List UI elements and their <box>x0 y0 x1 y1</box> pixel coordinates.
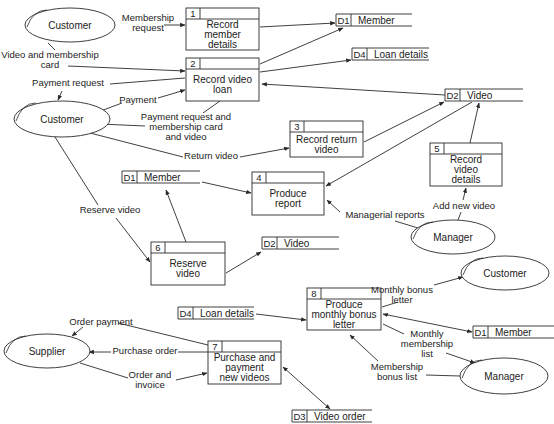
flow-label-text: list <box>421 348 433 359</box>
external-entity-supplier[interactable]: Supplier <box>4 334 90 368</box>
entity-label: Manager <box>484 371 524 382</box>
process-3[interactable]: 3Record returnvideo <box>290 121 363 157</box>
store-label: Member <box>495 327 532 338</box>
process-6[interactable]: 6Reservevideo <box>151 242 225 285</box>
flow-label-text: Add new video <box>433 200 495 211</box>
flow-label: Purchase order <box>113 345 178 356</box>
process-number: 3 <box>294 121 299 132</box>
flow-label-text: Reserve video <box>80 204 141 215</box>
flow-label: Membershipbonus list <box>371 361 423 382</box>
flow-label: Managerial reports <box>345 209 424 220</box>
process-number: 4 <box>256 172 261 183</box>
store-label: Video <box>284 238 310 249</box>
store-code: D2 <box>446 90 458 101</box>
data-store-d4[interactable]: D4Loan details <box>352 48 429 60</box>
process-label: letter <box>333 319 356 330</box>
data-store-d4[interactable]: D4Loan details <box>178 307 254 319</box>
flow-label: Reserve video <box>80 204 141 215</box>
external-entity-customer[interactable]: Customer <box>25 8 115 42</box>
store-label: Member <box>144 172 181 183</box>
data-store-d2[interactable]: D2Video <box>262 237 339 249</box>
flow-label-text: Purchase order <box>113 345 178 356</box>
store-label: Member <box>358 15 395 26</box>
flow-label-text: request <box>132 22 164 33</box>
process-number: 8 <box>311 288 316 299</box>
data-store-d1[interactable]: D1Member <box>336 14 412 26</box>
store-code: D4 <box>179 308 191 319</box>
flow-label-text: Order payment <box>69 316 133 327</box>
entity-label: Customer <box>48 20 92 31</box>
process-7[interactable]: 7Purchase andpaymentnew videos <box>208 341 281 384</box>
process-5[interactable]: 5Recordvideodetails <box>430 143 502 186</box>
store-label: Video order <box>314 411 366 422</box>
flow-label: Return video <box>184 150 238 161</box>
flow-label-text: Payment request <box>32 77 104 88</box>
store-code: D1 <box>123 172 135 183</box>
process-number: 7 <box>212 341 217 352</box>
process-1[interactable]: 1Recordmemberdetails <box>186 8 259 50</box>
process-number: 6 <box>155 242 160 253</box>
process-label: details <box>452 174 481 185</box>
store-code: D3 <box>293 411 305 422</box>
entity-label: Manager <box>433 232 473 243</box>
flow-label: Order payment <box>69 316 133 327</box>
process-number: 2 <box>190 58 195 69</box>
flow-label-text: letter <box>391 294 412 305</box>
process-label: details <box>208 39 237 50</box>
process-label: video <box>176 268 200 279</box>
flow-label-text: Return video <box>184 150 238 161</box>
store-code: D4 <box>353 49 365 60</box>
flow-label-text: and video <box>165 131 206 142</box>
flow-label-text: bonus list <box>377 371 417 382</box>
data-store-d3[interactable]: D3Video order <box>292 410 372 422</box>
data-store-d1[interactable]: D1Member <box>473 326 554 338</box>
store-code: D1 <box>474 327 486 338</box>
data-store-d2[interactable]: D2Video <box>445 89 523 101</box>
flow-label: Payment request andmembership cardand vi… <box>141 111 231 142</box>
entity-label: Customer <box>40 114 84 125</box>
process-label: loan <box>213 84 232 95</box>
process-8[interactable]: 8Producemonthly bonusletter <box>307 288 381 330</box>
store-code: D2 <box>263 238 275 249</box>
flow-label-text: Managerial reports <box>345 209 424 220</box>
external-entity-customer[interactable]: Customer <box>14 101 110 137</box>
flow-label: Monthlymembershiplist <box>401 328 453 359</box>
external-entity-customer[interactable]: Customer <box>461 256 549 290</box>
entity-label: Supplier <box>29 346 66 357</box>
process-label: new videos <box>219 372 269 383</box>
flow-label: Add new video <box>433 200 495 211</box>
entity-label: Customer <box>483 268 527 279</box>
store-label: Loan details <box>200 308 254 319</box>
external-entity-manager[interactable]: Manager <box>460 358 548 394</box>
data-flow-diagram: CustomerCustomerManagerCustomerSupplierM… <box>0 0 554 424</box>
flow-label-text: card <box>41 59 59 70</box>
store-label: Loan details <box>374 49 428 60</box>
store-label: Video <box>467 90 493 101</box>
process-number: 1 <box>190 8 195 19</box>
data-store-d1[interactable]: D1Member <box>122 171 200 183</box>
process-label: video <box>315 144 339 155</box>
flow-label: Payment <box>119 94 157 105</box>
flow-label-text: Payment <box>119 94 157 105</box>
flow-label-text: invoice <box>135 379 165 390</box>
flow-label: Order andinvoice <box>129 369 172 390</box>
process-label: report <box>275 198 301 209</box>
external-entity-manager[interactable]: Manager <box>411 220 495 254</box>
flow-label: Payment request <box>32 77 104 88</box>
flow-label: Membershiprequest <box>122 12 174 33</box>
store-code: D1 <box>337 15 349 26</box>
process-4[interactable]: 4Producereport <box>252 172 324 215</box>
process-number: 5 <box>434 143 439 154</box>
process-2[interactable]: 2Record videoloan <box>186 58 259 101</box>
